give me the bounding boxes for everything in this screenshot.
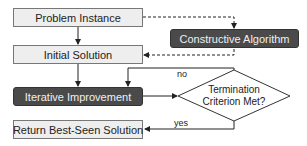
initial-solution-node: Initial Solution <box>13 45 143 64</box>
iterative-improvement-label: Iterative Improvement <box>25 91 131 103</box>
return-best-node: Return Best-Seen Solution <box>13 120 143 139</box>
iterative-improvement-node: Iterative Improvement <box>13 87 143 106</box>
constructive-algorithm-label: Constructive Algorithm <box>179 33 289 45</box>
no-edge-label: no <box>177 69 187 79</box>
problem-instance-node: Problem Instance <box>13 8 143 27</box>
constructive-algorithm-node: Constructive Algorithm <box>170 29 299 48</box>
yes-edge-label: yes <box>174 118 188 128</box>
termination-criterion-label: Termination Criterion Met? <box>190 84 278 108</box>
termination-line2: Criterion Met? <box>190 96 278 108</box>
initial-solution-label: Initial Solution <box>44 49 113 61</box>
return-best-label: Return Best-Seen Solution <box>13 124 143 136</box>
problem-instance-label: Problem Instance <box>35 12 121 24</box>
termination-line1: Termination <box>190 84 278 96</box>
